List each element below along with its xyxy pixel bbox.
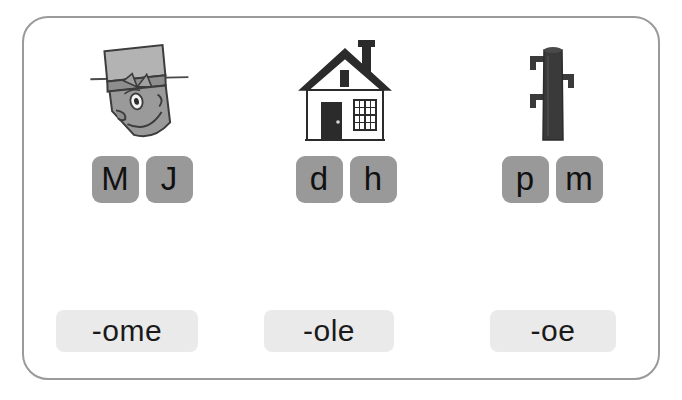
picture-slot-2 [246, 32, 446, 152]
rime-chip[interactable]: -oe [490, 310, 616, 352]
letter-tile[interactable]: m [556, 156, 603, 203]
worksheet-column-2: d h -ole [246, 18, 446, 378]
letter-tile[interactable]: M [92, 156, 139, 203]
letter-tiles-1: M J [42, 156, 242, 212]
rime-chip[interactable]: -ole [264, 310, 394, 352]
letter-tiles-3: p m [452, 156, 652, 212]
rime-chip[interactable]: -ome [56, 310, 198, 352]
worksheet-frame: M J -ome [22, 16, 660, 380]
worksheet-page: M J -ome [0, 0, 682, 400]
picture-slot-3 [452, 32, 652, 152]
letter-tile[interactable]: h [350, 156, 397, 203]
worksheet-column-1: M J -ome [42, 18, 242, 378]
house-icon [290, 32, 402, 152]
picture-slot-1 [42, 32, 242, 152]
letter-tile[interactable]: d [296, 156, 343, 203]
letter-tiles-2: d h [246, 156, 446, 212]
worksheet-column-3: p m -oe [452, 18, 652, 378]
letter-tile[interactable]: J [146, 156, 193, 203]
pole-icon [502, 32, 602, 152]
gnome-face-with-hat-icon [87, 32, 197, 152]
letter-tile[interactable]: p [502, 156, 549, 203]
